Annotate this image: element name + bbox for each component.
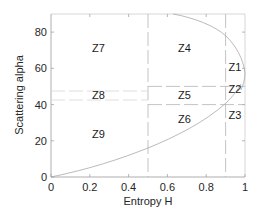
zone-label-z7: Z7 bbox=[92, 42, 105, 54]
x-tick-label: 0.8 bbox=[199, 181, 214, 193]
zone-label-z1: Z1 bbox=[229, 61, 242, 73]
x-tick-label: 1 bbox=[242, 181, 248, 193]
x-tick-label: 0.4 bbox=[121, 181, 136, 193]
y-tick-label: 80 bbox=[35, 26, 47, 38]
zone-label-z8: Z8 bbox=[92, 89, 105, 101]
zone-label-z3: Z3 bbox=[229, 109, 242, 121]
zone-label-z6: Z6 bbox=[178, 113, 191, 125]
zone-label-z2: Z2 bbox=[229, 83, 242, 95]
x-tick-label: 0.2 bbox=[82, 181, 97, 193]
y-tick-label: 0 bbox=[41, 171, 47, 183]
y-tick-label: 40 bbox=[35, 99, 47, 111]
plot-area: Z1 Z2 Z3 Z4 Z5 Z6 Z7 Z8 Z9 bbox=[51, 14, 245, 177]
x-tick-label: 0.6 bbox=[160, 181, 175, 193]
zone-label-z4: Z4 bbox=[178, 42, 191, 54]
zone-label-z5: Z5 bbox=[178, 89, 191, 101]
y-tick-label: 60 bbox=[35, 62, 47, 74]
x-tick-labels: 0 0.2 0.4 0.6 0.8 1 bbox=[48, 181, 248, 193]
x-tick-label: 0 bbox=[48, 181, 54, 193]
y-tick-labels: 0 20 40 60 80 bbox=[35, 26, 47, 183]
zone-label-z9: Z9 bbox=[92, 128, 105, 140]
y-tick-label: 20 bbox=[35, 135, 47, 147]
x-axis-title: Entropy H bbox=[124, 195, 173, 207]
y-axis-title: Scattering alpha bbox=[13, 54, 25, 134]
h-alpha-plane-chart: Z1 Z2 Z3 Z4 Z5 Z6 Z7 Z8 Z9 0 0.2 0.4 0.6… bbox=[0, 0, 261, 220]
